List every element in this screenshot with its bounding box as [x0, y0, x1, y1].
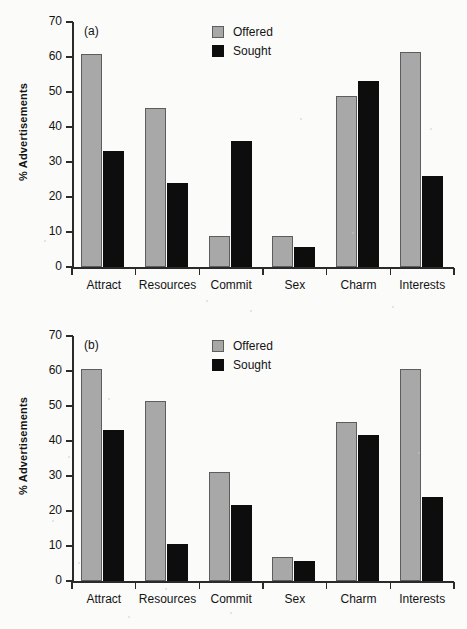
x-tick-mark [135, 268, 136, 275]
legend-a: Offered Sought [212, 22, 273, 60]
scan-speckle [300, 118, 302, 120]
y-tick-mark [66, 126, 73, 127]
scan-speckle [250, 310, 252, 312]
legend-item-offered-a: Offered [212, 22, 273, 41]
y-tick-mark [66, 475, 73, 476]
chart-panel-a: % Advertisements (a) Offered Sought 0102… [0, 8, 467, 308]
figure-page: % Advertisements (a) Offered Sought 0102… [0, 0, 467, 629]
plot-area-a: % Advertisements (a) Offered Sought 0102… [0, 8, 467, 308]
x-tick-mark [199, 268, 200, 275]
y-tick-label: 30 [34, 154, 62, 168]
scan-speckle [165, 588, 167, 590]
legend-item-sought-a: Sought [212, 41, 273, 60]
x-tick-label: Interests [377, 278, 467, 292]
bar-sought-interests [422, 176, 443, 267]
y-tick-label: 0 [34, 573, 62, 587]
y-tick-label: 70 [34, 328, 62, 342]
y-tick-label: 70 [34, 14, 62, 28]
x-tick-mark [71, 268, 72, 275]
y-tick-label: 40 [34, 119, 62, 133]
chart-panel-b: % Advertisements (b) Offered Sought 0102… [0, 322, 467, 622]
legend-label-offered-b: Offered [233, 339, 273, 353]
y-tick-mark [66, 161, 73, 162]
legend-swatch-sought-icon [212, 45, 224, 57]
bar-offered-charm [336, 422, 357, 581]
x-tick-mark [262, 582, 263, 589]
y-tick-label: 60 [34, 49, 62, 63]
y-tick-label: 10 [34, 224, 62, 238]
scan-speckle [108, 398, 110, 400]
scan-speckle [206, 300, 208, 302]
bar-sought-charm [358, 81, 379, 267]
legend-swatch-sought-icon [212, 359, 224, 371]
scan-speckle [78, 562, 80, 564]
bar-sought-resources [167, 544, 188, 581]
bar-sought-commit [231, 505, 252, 581]
y-tick-mark [66, 440, 73, 441]
bar-sought-sex [294, 247, 315, 267]
bar-sought-resources [167, 183, 188, 267]
bar-offered-charm [336, 96, 357, 267]
x-tick-mark [390, 582, 391, 589]
scan-speckle [44, 240, 46, 242]
panel-label-a: (a) [84, 24, 99, 38]
x-tick-label: Interests [377, 592, 467, 606]
legend-label-sought-b: Sought [233, 358, 271, 372]
y-tick-mark [66, 196, 73, 197]
x-tick-mark [453, 582, 454, 589]
scan-speckle [418, 452, 420, 454]
bar-offered-sex [272, 236, 293, 268]
scan-speckle [230, 612, 232, 614]
y-tick-mark [66, 91, 73, 92]
scan-speckle [128, 616, 130, 618]
y-tick-mark [66, 370, 73, 371]
x-tick-mark [135, 582, 136, 589]
bar-offered-attract [81, 54, 102, 268]
bar-sought-attract [103, 430, 124, 581]
bar-offered-sex [272, 557, 293, 582]
y-tick-mark [66, 56, 73, 57]
y-axis-title-b: % Advertisements [17, 371, 29, 521]
bar-offered-commit [209, 472, 230, 581]
y-tick-label: 50 [34, 84, 62, 98]
y-tick-mark [66, 21, 73, 22]
x-tick-mark [326, 582, 327, 589]
legend-label-sought-a: Sought [233, 44, 271, 58]
bar-offered-interests [400, 52, 421, 267]
bar-sought-sex [294, 561, 315, 581]
y-tick-label: 50 [34, 398, 62, 412]
y-tick-label: 20 [34, 503, 62, 517]
panel-label-b: (b) [84, 338, 99, 352]
x-tick-mark [71, 582, 72, 589]
x-tick-mark [326, 268, 327, 275]
bar-offered-resources [145, 108, 166, 267]
y-tick-label: 60 [34, 363, 62, 377]
scan-speckle [52, 520, 54, 522]
x-tick-mark [262, 268, 263, 275]
y-tick-mark [66, 545, 73, 546]
plot-area-b: % Advertisements (b) Offered Sought 0102… [0, 322, 467, 622]
bar-offered-resources [145, 401, 166, 581]
legend-item-offered-b: Offered [212, 336, 273, 355]
y-tick-label: 0 [34, 259, 62, 273]
y-tick-mark [66, 335, 73, 336]
bar-sought-attract [103, 151, 124, 267]
y-tick-mark [66, 231, 73, 232]
legend-label-offered-a: Offered [233, 25, 273, 39]
legend-swatch-offered-icon [212, 340, 224, 352]
legend-swatch-offered-icon [212, 26, 224, 38]
scan-speckle [68, 456, 70, 458]
y-axis-title-a: % Advertisements [17, 57, 29, 207]
bar-offered-attract [81, 369, 102, 581]
bar-sought-charm [358, 435, 379, 581]
y-tick-label: 10 [34, 538, 62, 552]
scan-speckle [352, 232, 354, 234]
scan-speckle [430, 128, 432, 130]
x-tick-mark [390, 268, 391, 275]
y-tick-mark [66, 510, 73, 511]
bar-offered-interests [400, 369, 421, 581]
legend-item-sought-b: Sought [212, 355, 273, 374]
y-tick-label: 20 [34, 189, 62, 203]
y-tick-label: 30 [34, 468, 62, 482]
legend-b: Offered Sought [212, 336, 273, 374]
